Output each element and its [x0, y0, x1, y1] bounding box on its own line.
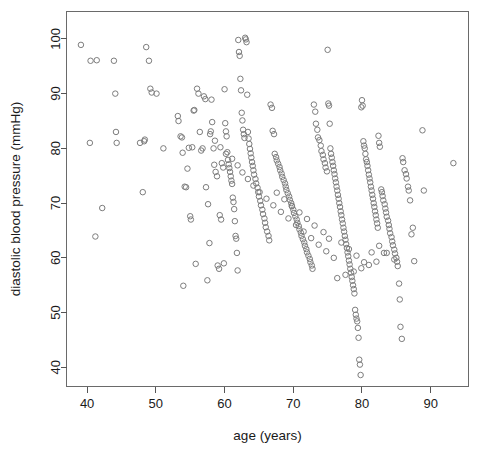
x-tick-label: 70 [286, 396, 300, 411]
x-tick-label: 90 [423, 396, 437, 411]
y-axis-title: diastolic blood pressure (mmHg) [8, 102, 23, 296]
y-tick-label: 90 [48, 86, 63, 100]
x-tick-label: 60 [217, 396, 231, 411]
y-tick-label: 50 [48, 305, 63, 319]
x-axis-title: age (years) [233, 428, 301, 443]
scatter-plot-figure: 405060708090 405060708090100 age (years)… [0, 0, 479, 455]
x-tick-label: 80 [355, 396, 369, 411]
y-tick-label: 70 [48, 196, 63, 210]
plot-canvas: 405060708090 405060708090100 age (years)… [0, 0, 479, 455]
x-tick-label: 40 [80, 396, 94, 411]
x-tick-label: 50 [149, 396, 163, 411]
y-tick-label: 100 [48, 28, 63, 50]
y-tick-label: 40 [48, 360, 63, 374]
y-tick-label: 60 [48, 251, 63, 265]
y-tick-label: 80 [48, 141, 63, 155]
